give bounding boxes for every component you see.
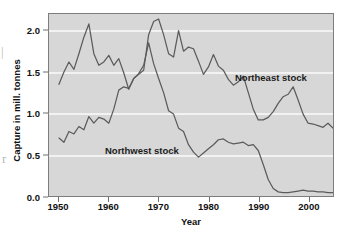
x-axis-tick-mark — [309, 197, 310, 202]
x-axis-tick-label: 1980 — [198, 201, 219, 212]
chart-screenshot: | r Capture in mill. tonnes 0.00.51.01.5… — [0, 0, 346, 236]
x-axis: 195019601970198019902000 — [0, 0, 346, 236]
x-axis-tick-mark — [259, 197, 260, 202]
x-axis-title: Year — [48, 216, 334, 227]
x-axis-tick-mark — [158, 197, 159, 202]
x-axis-tick-mark — [108, 197, 109, 202]
x-axis-tick-label: 1960 — [98, 201, 119, 212]
x-axis-tick-mark — [58, 197, 59, 202]
x-axis-tick-label: 1990 — [248, 201, 269, 212]
x-axis-tick-label: 1950 — [47, 201, 68, 212]
x-axis-tick-mark — [209, 197, 210, 202]
x-axis-tick-label: 2000 — [298, 201, 319, 212]
x-axis-tick-label: 1970 — [148, 201, 169, 212]
